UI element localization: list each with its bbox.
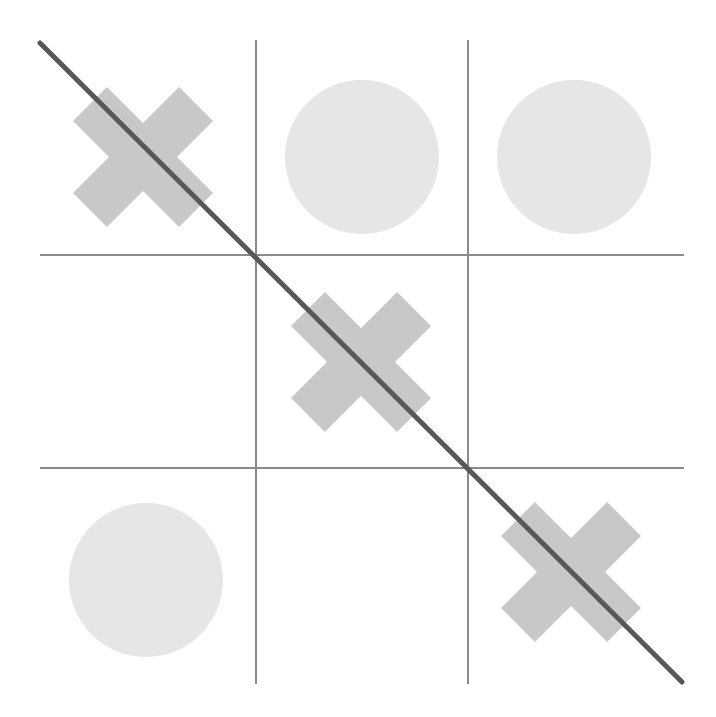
o-mark-icon: [285, 80, 439, 234]
o-mark-icon: [69, 503, 223, 657]
o-mark-icon: [497, 80, 651, 234]
marks-layer: [0, 0, 716, 717]
x-mark-icon: [73, 87, 213, 227]
tic-tac-toe-board: [0, 0, 716, 717]
